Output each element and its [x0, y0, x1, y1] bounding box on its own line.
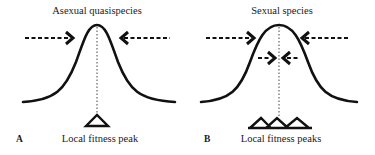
- panel-a-letter: A: [16, 134, 23, 144]
- panel-b-title: Sexual species: [251, 5, 313, 16]
- diagram-canvas: [0, 0, 375, 155]
- panel-b-caption: Local fitness peaks: [241, 133, 321, 144]
- panel-a-fitness-peak-triangle-icon: [86, 115, 108, 126]
- panel-a-bell-curve: [23, 25, 175, 102]
- panel-a-caption: Local fitness peak: [62, 133, 138, 144]
- panel-b-graphic: [201, 25, 357, 128]
- panel-b-letter: B: [204, 134, 210, 144]
- panel-b-fitness-peaks-triangles-icon: [248, 118, 312, 128]
- panel-a-graphic: [23, 25, 175, 126]
- panel-b-inner-left-arrowhead-icon: [268, 52, 275, 64]
- panel-a-title: Asexual quasispecies: [52, 5, 142, 16]
